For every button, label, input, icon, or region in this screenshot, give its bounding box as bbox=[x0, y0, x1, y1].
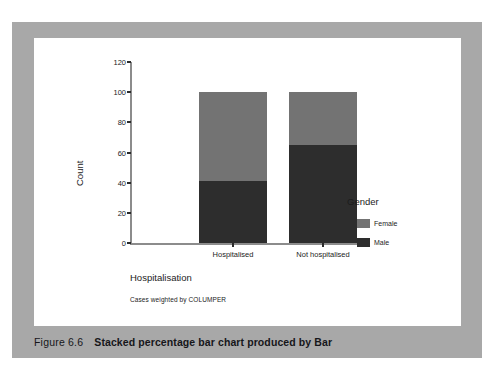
legend-item: Male bbox=[357, 238, 447, 247]
y-tick-label: 40 bbox=[100, 178, 126, 187]
figure-page: Count 020406080100120 HospitalisedNot ho… bbox=[0, 0, 494, 379]
figure-caption: Figure 6.6 Stacked percentage bar chart … bbox=[34, 332, 474, 352]
x-tick-label: Hospitalised bbox=[213, 250, 254, 259]
y-tick-mark bbox=[127, 212, 131, 214]
legend-swatch bbox=[357, 238, 370, 247]
legend-item: Female bbox=[357, 219, 447, 228]
figure-plate: Count 020406080100120 HospitalisedNot ho… bbox=[34, 38, 461, 326]
x-tick-mark bbox=[232, 243, 234, 247]
y-tick-mark bbox=[127, 152, 131, 154]
legend-label: Male bbox=[374, 239, 389, 246]
x-tick-label: Not hospitalised bbox=[296, 250, 349, 259]
y-tick-mark bbox=[127, 91, 131, 93]
y-tick-mark bbox=[127, 121, 131, 123]
y-tick-mark bbox=[127, 182, 131, 184]
y-tick-label: 80 bbox=[100, 118, 126, 127]
bar bbox=[199, 62, 267, 243]
chart-footnote: Cases weighted by COLUMPER bbox=[130, 296, 226, 303]
legend: Gender FemaleMale bbox=[347, 196, 447, 257]
bar-segment-female bbox=[199, 92, 267, 181]
figure-number: Figure 6.6 bbox=[34, 336, 83, 348]
legend-swatch bbox=[357, 219, 370, 228]
x-axis-title: Hospitalisation bbox=[130, 272, 192, 283]
y-tick-label: 20 bbox=[100, 208, 126, 217]
y-tick-label: 120 bbox=[100, 58, 126, 67]
y-tick-label: 100 bbox=[100, 88, 126, 97]
legend-entries: FemaleMale bbox=[347, 219, 447, 247]
stacked-bar-chart: Count 020406080100120 HospitalisedNot ho… bbox=[34, 38, 461, 326]
y-tick-label: 0 bbox=[100, 239, 126, 248]
legend-label: Female bbox=[374, 220, 397, 227]
bar-segment-female bbox=[289, 92, 357, 145]
x-tick-mark bbox=[322, 243, 324, 247]
legend-title: Gender bbox=[347, 196, 447, 207]
y-tick-label: 60 bbox=[100, 148, 126, 157]
y-tick-mark bbox=[127, 242, 131, 244]
bar-segment-male bbox=[199, 181, 267, 243]
y-tick-mark bbox=[127, 61, 131, 63]
figure-caption-text: Stacked percentage bar chart produced by… bbox=[94, 336, 332, 348]
y-axis-title: Count bbox=[74, 161, 85, 186]
x-axis-line bbox=[130, 243, 360, 245]
